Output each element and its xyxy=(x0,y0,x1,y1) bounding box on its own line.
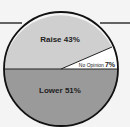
label-no-opinion: No Opinion7% xyxy=(79,61,116,68)
slice-lower xyxy=(4,69,118,126)
label-raise: Raise 43% xyxy=(40,35,80,44)
label-no-opinion-text: No Opinion xyxy=(79,62,104,68)
label-no-opinion-value: 7% xyxy=(105,61,116,68)
label-lower: Lower 51% xyxy=(39,86,81,95)
pie-chart: Raise 43% No Opinion7% Lower 51% xyxy=(0,0,130,127)
